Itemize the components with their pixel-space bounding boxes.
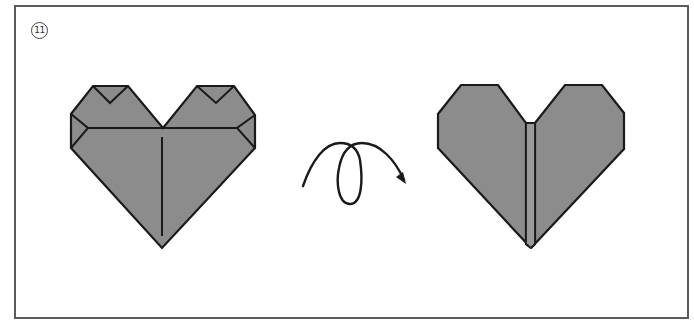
origami-diagram	[0, 0, 694, 324]
heart-right-half	[531, 85, 624, 248]
heart-folded-front	[71, 86, 255, 248]
turn-over-arrow	[303, 143, 406, 204]
heart-finished	[438, 85, 624, 248]
loop-arrow-path	[303, 143, 404, 204]
arrow-head-icon	[396, 172, 406, 184]
center-strip	[526, 123, 535, 248]
heart-left-half	[438, 85, 531, 248]
